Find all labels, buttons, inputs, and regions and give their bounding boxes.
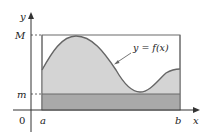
max-label: M — [14, 30, 26, 41]
b-label: b — [175, 115, 181, 126]
origin-label: 0 — [19, 115, 25, 126]
x-axis-label: x — [193, 115, 199, 126]
min-band — [42, 94, 180, 110]
y-axis-arrow-icon — [28, 12, 34, 19]
min-label: m — [17, 89, 26, 100]
diagram-canvas: y x M m 0 a b y = f(x) — [0, 0, 213, 138]
y-axis-label: y — [19, 11, 26, 22]
a-label: a — [40, 115, 46, 126]
curve-label: y = f(x) — [132, 42, 169, 53]
x-axis-arrow-icon — [193, 107, 200, 113]
